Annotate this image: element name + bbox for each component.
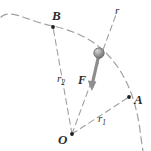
particle-sphere: [94, 48, 104, 58]
label-point-b: B: [52, 9, 61, 22]
label-origin-o: O: [58, 133, 67, 146]
diagram-canvas: [0, 0, 151, 151]
label-radius-r1-subscript: 1: [102, 118, 106, 127]
trajectory-arc: [1, 14, 143, 151]
force-vector-arrowhead: [88, 81, 97, 92]
label-radius-r1: r1: [98, 113, 106, 124]
physics-diagram: B A O r r1 r2 F: [0, 0, 151, 151]
point-marker-a: [127, 95, 131, 99]
label-radius-r: r: [115, 5, 119, 16]
label-radius-r2-subscript: 2: [61, 78, 65, 87]
label-point-a: A: [134, 93, 143, 106]
point-marker-b: [51, 25, 55, 29]
label-force-f: F: [78, 74, 86, 86]
label-radius-r2: r2: [57, 73, 65, 84]
point-marker-o: [70, 132, 74, 136]
